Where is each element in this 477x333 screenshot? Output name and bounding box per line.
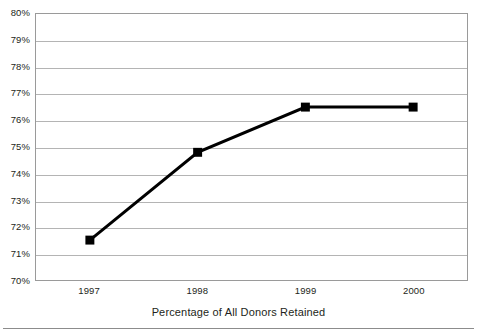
series-line-donor-retention	[90, 107, 413, 240]
data-point-marker	[409, 103, 418, 112]
x-axis-tick-label: 2000	[403, 285, 425, 297]
y-axis-tick-label: 78%	[0, 62, 30, 72]
data-series-layer	[36, 14, 467, 280]
y-axis-tick-label: 80%	[0, 8, 30, 18]
y-axis-tick-label: 79%	[0, 35, 30, 45]
data-point-marker	[193, 148, 202, 157]
y-axis-tick-label: 73%	[0, 196, 30, 206]
x-axis-labels: 1997199819992000	[35, 285, 468, 299]
chart-figure: 80%79%78%77%76%75%74%73%72%71%70% 199719…	[0, 0, 477, 333]
caption-divider	[3, 328, 474, 329]
y-axis-tick-label: 76%	[0, 115, 30, 125]
plot-area	[35, 13, 468, 281]
chart-caption: Percentage of All Donors Retained	[0, 305, 477, 319]
x-axis-tick-label: 1997	[78, 285, 100, 297]
series-markers	[85, 103, 417, 245]
y-axis-tick-label: 70%	[0, 276, 30, 286]
data-point-marker	[301, 103, 310, 112]
y-axis-tick-label: 77%	[0, 88, 30, 98]
x-axis-tick-label: 1998	[187, 285, 209, 297]
y-axis-tick-label: 71%	[0, 249, 30, 259]
data-point-marker	[85, 236, 94, 245]
x-axis-tick-label: 1999	[295, 285, 317, 297]
y-axis-tick-label: 72%	[0, 222, 30, 232]
y-axis-tick-label: 75%	[0, 142, 30, 152]
y-axis-tick-label: 74%	[0, 169, 30, 179]
